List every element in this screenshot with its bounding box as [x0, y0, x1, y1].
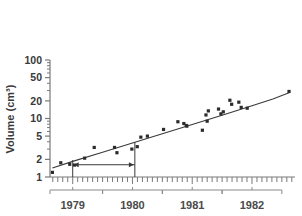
- data-point: [185, 125, 188, 128]
- data-point: [217, 107, 220, 110]
- data-point: [146, 135, 149, 138]
- x-axis-tick-label: 1982: [240, 199, 264, 211]
- data-point: [222, 110, 225, 113]
- data-point: [237, 101, 240, 104]
- data-point: [68, 163, 71, 166]
- y-axis-tick-label: 5: [36, 130, 42, 142]
- data-point: [51, 171, 54, 174]
- data-point: [204, 113, 207, 116]
- data-point: [287, 90, 290, 93]
- x-axis-tick-label: 1979: [60, 199, 84, 211]
- data-point: [130, 147, 133, 150]
- chart-background: [0, 0, 302, 216]
- data-point: [93, 146, 96, 149]
- data-point: [207, 109, 210, 112]
- y-axis-tick-label: 50: [30, 71, 42, 83]
- x-axis-tick-label: 1980: [120, 199, 144, 211]
- data-point: [59, 161, 62, 164]
- data-point: [139, 136, 142, 139]
- data-point: [176, 120, 179, 123]
- data-point: [115, 151, 118, 154]
- y-axis-tick-label: 2: [36, 153, 42, 165]
- chart-figure: Volume (cm³) 125102050100 19791980198119…: [0, 0, 302, 216]
- x-axis-tick-label: 1981: [180, 199, 204, 211]
- data-point: [246, 107, 249, 110]
- data-point: [113, 146, 116, 149]
- data-point: [206, 120, 209, 123]
- data-point: [240, 106, 243, 109]
- y-axis-tick-label: 100: [24, 54, 42, 66]
- y-axis-label: Volume (cm³): [4, 84, 16, 153]
- data-point: [136, 145, 139, 148]
- y-axis-tick-label: 1: [36, 171, 42, 183]
- data-point: [230, 103, 233, 106]
- y-axis-tick-label: 20: [30, 95, 42, 107]
- data-point: [73, 163, 76, 166]
- data-point: [83, 157, 86, 160]
- data-point: [162, 128, 165, 131]
- y-axis-spine: [45, 60, 50, 177]
- data-point: [228, 99, 231, 102]
- data-point: [201, 129, 204, 132]
- volume-vs-time-scatter-chart: Volume (cm³) 125102050100 19791980198119…: [0, 0, 302, 216]
- y-axis-tick-label: 10: [30, 112, 42, 124]
